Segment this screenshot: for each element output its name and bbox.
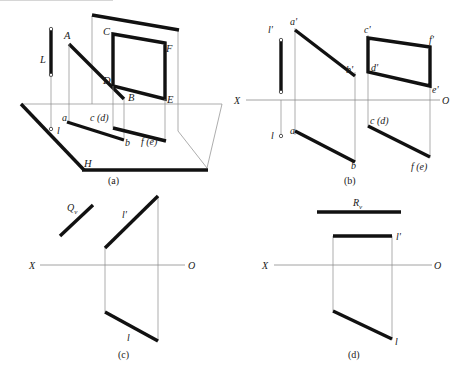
h-plane-right-edge (207, 104, 222, 168)
label-e-prime-b: e' (432, 84, 439, 95)
axis-label-X-b: X (233, 95, 241, 106)
label-l-prime-c: l' (122, 209, 128, 220)
point-l-horizontal-b (279, 134, 282, 137)
point-l-horizontal-projection (49, 127, 52, 130)
line-ab-top-view-b (295, 131, 355, 162)
label-l-prime-d: l' (396, 231, 402, 242)
endpoint-l-prime-bottom-b (279, 90, 282, 93)
label-cd-b: c (d) (370, 115, 389, 127)
label-F: F (165, 43, 173, 54)
label-l-c: l (127, 332, 130, 343)
line-l-top-c (105, 312, 158, 341)
label-A: A (63, 30, 71, 41)
h-plane-front-left-edge (21, 104, 84, 170)
label-fe: f (e) (141, 136, 158, 148)
panel-d: X O Rv l' l (d) (261, 197, 441, 361)
panel-b: X O l' a' b' c' d' e' f' l a b c (d) f (… (233, 16, 449, 187)
endpoint-l-prime-top-b (279, 38, 282, 41)
label-l-prime-b: l' (268, 24, 274, 35)
line-l-top-d (333, 311, 392, 339)
caption-a: (a) (108, 175, 119, 187)
line-L-top-endpoint (49, 27, 52, 30)
label-a-prime-b: a' (290, 16, 298, 27)
line-l-prime-c (105, 196, 158, 248)
label-L: L (39, 54, 46, 65)
label-D: D (102, 75, 111, 86)
panel-a: L A B C D E F H a b l c (d) f (e) (a) (0, 0, 222, 187)
label-d-prime-b: d' (371, 62, 379, 73)
technical-drawing-canvas: L A B C D E F H a b l c (d) f (e) (a) X … (0, 0, 455, 372)
caption-d: (d) (348, 349, 360, 361)
label-C: C (103, 26, 111, 37)
label-cd: c (d) (90, 112, 109, 124)
label-a: a (62, 112, 67, 123)
label-Qv-c: Qv (67, 202, 78, 216)
v-plane-corner-edge (178, 131, 207, 168)
label-c-prime-b: c' (364, 24, 371, 35)
caption-b: (b) (344, 175, 356, 187)
figure-root: L A B C D E F H a b l c (d) f (e) (a) X … (0, 0, 455, 372)
label-b-prime-b: b' (346, 64, 354, 75)
line-AB-space (69, 44, 124, 99)
label-l: l (57, 125, 60, 136)
axis-label-O-b: O (442, 95, 449, 106)
label-B: B (128, 92, 135, 103)
label-b: b (125, 137, 130, 148)
plane-cdef-top-view-b (368, 126, 430, 157)
axis-label-X-d: X (261, 260, 269, 271)
label-Rv-d: Rv (352, 197, 363, 211)
label-E: E (166, 94, 174, 105)
caption-c: (c) (118, 349, 129, 361)
label-f-prime-b: f' (429, 34, 435, 45)
label-H: H (83, 158, 93, 169)
line-ab-horizontal-projection (67, 122, 124, 140)
label-a-b: a (290, 125, 295, 136)
panel-c: X O Qv l' l (c) (28, 196, 195, 361)
label-l-d: l (395, 336, 398, 347)
plane-cdef-space (113, 34, 165, 99)
axis-label-X-c: X (28, 260, 36, 271)
label-l-b: l (271, 130, 274, 141)
axis-label-O-d: O (434, 260, 441, 271)
label-b-lower-b: b (351, 160, 356, 171)
axis-label-O-c: O (188, 260, 195, 271)
label-fe-b: f (e) (411, 161, 428, 173)
